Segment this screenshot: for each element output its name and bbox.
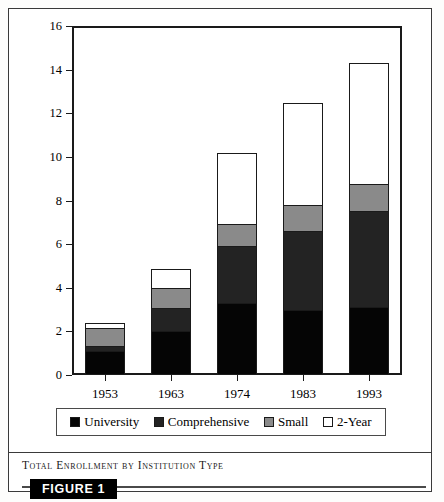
bar-1974 [217,153,257,375]
bar-segment-2-year [350,64,388,184]
bar-segment-2-year [218,154,256,224]
caption-block: Total Enrollment by Institution Type FIG… [8,452,432,492]
bar-1963 [151,269,191,375]
y-tick-label: 0 [16,368,62,383]
bar-1953 [85,323,125,375]
bar-segment-comprehensive [152,308,190,332]
legend-item-university: University [70,414,139,430]
bar-segment-university [284,310,322,374]
x-tick-mark [237,375,238,381]
bar-segment-university [218,303,256,374]
legend-item-2-year: 2-Year [323,414,372,430]
legend-label: Small [278,414,308,430]
x-tick-mark [369,375,370,381]
legend-swatch-icon [264,417,274,427]
bar-segment-small [152,288,190,307]
bar-segment-small [218,224,256,247]
bar-segment-comprehensive [218,246,256,302]
y-tick-mark [66,375,72,376]
legend-swatch-icon [154,417,164,427]
legend-item-comprehensive: Comprehensive [154,414,250,430]
figure-caption: Total Enrollment by Institution Type [22,459,224,471]
legend-item-small: Small [264,414,308,430]
x-tick-mark [171,375,172,381]
x-tick-mark [303,375,304,381]
figure-number-tag: FIGURE 1 [30,479,117,499]
y-tick-label: 8 [16,193,62,208]
bar-segment-comprehensive [284,231,322,310]
bar-segment-comprehensive [350,211,388,306]
x-tick-mark [105,375,106,381]
legend-label: Comprehensive [168,414,250,430]
legend-label: 2-Year [337,414,372,430]
bar-segment-university [152,331,190,374]
y-tick-label: 14 [16,62,62,77]
y-tick-label: 12 [16,106,62,121]
bar-segment-small [350,184,388,211]
x-tick-label-1983: 1983 [268,386,338,402]
x-tick-label-1974: 1974 [202,386,272,402]
y-tick-label: 16 [16,19,62,34]
bar-segment-2-year [152,270,190,288]
bar-1983 [283,103,323,375]
y-tick-label: 4 [16,280,62,295]
bar-segment-small [86,328,124,346]
bars-layer [72,26,402,375]
x-tick-label-1953: 1953 [70,386,140,402]
bar-segment-small [284,205,322,231]
x-tick-label-1963: 1963 [136,386,206,402]
bar-segment-university [86,351,124,374]
bar-segment-2-year [284,104,322,205]
x-tick-label-1993: 1993 [334,386,404,402]
legend-label: University [84,414,139,430]
chart-legend: UniversityComprehensiveSmall2-Year [56,408,386,436]
y-tick-label: 10 [16,149,62,164]
legend-swatch-icon [70,417,80,427]
figure-root: Millions of Students 1614121086420 19531… [0,0,444,502]
y-tick-label: 6 [16,237,62,252]
y-tick-label: 2 [16,324,62,339]
legend-swatch-icon [323,417,333,427]
bar-segment-university [350,307,388,374]
bar-1993 [349,63,389,375]
